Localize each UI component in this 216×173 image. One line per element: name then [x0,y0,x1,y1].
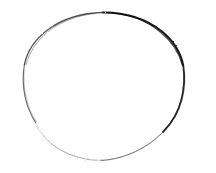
sketch-canvas [0,0,216,173]
circle-drawing [0,0,216,173]
